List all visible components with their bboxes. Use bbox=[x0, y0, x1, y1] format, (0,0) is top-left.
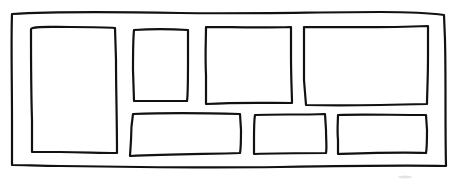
panel-wide-bottom-left bbox=[130, 113, 241, 156]
wireframe-sketch bbox=[0, 0, 453, 181]
panel-tall-left bbox=[31, 27, 117, 153]
outer-frame bbox=[12, 12, 446, 167]
sketch-canvas bbox=[0, 0, 453, 181]
paper-smudge bbox=[398, 176, 412, 179]
panel-medium-top bbox=[206, 27, 292, 104]
panel-wide-top-right bbox=[304, 26, 428, 105]
panel-bottom-middle bbox=[254, 114, 326, 154]
panel-bottom-right bbox=[338, 115, 427, 154]
panel-small-top bbox=[133, 29, 188, 101]
